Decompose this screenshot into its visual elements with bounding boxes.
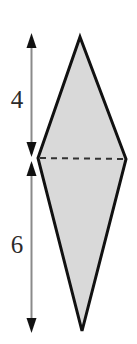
arrowhead-down-middle-icon	[27, 142, 37, 157]
geometry-figure: 4 6	[0, 0, 137, 344]
kite-shape	[38, 37, 126, 331]
arrowhead-down-bottom-icon	[27, 318, 37, 333]
arrowhead-up-middle-icon	[27, 161, 37, 176]
arrowhead-up-top-icon	[27, 33, 37, 48]
dimension-label-upper: 4	[6, 87, 28, 112]
figure-canvas	[0, 0, 137, 344]
dimension-label-lower: 6	[6, 232, 28, 257]
